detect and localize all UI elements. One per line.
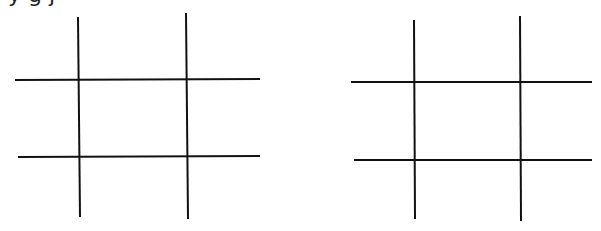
left-grid-vertical-line <box>186 13 188 219</box>
left-grid-horizontal-line <box>15 79 260 80</box>
left-grid <box>15 13 260 219</box>
right-grid-vertical-line <box>520 16 521 221</box>
left-grid-horizontal-line <box>18 156 260 157</box>
tic-tac-toe-grids-diagram <box>0 0 601 231</box>
right-grid <box>351 16 592 221</box>
left-grid-vertical-line <box>78 17 80 217</box>
right-grid-vertical-line <box>414 20 415 219</box>
